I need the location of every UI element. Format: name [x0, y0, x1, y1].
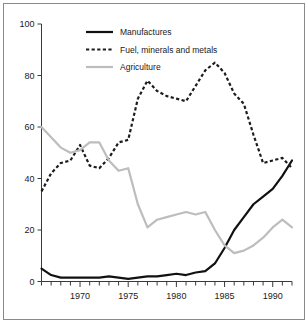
x-tick-label: 1980	[166, 291, 186, 301]
x-tick-label: 1985	[215, 291, 235, 301]
chart-figure: 020406080100 19701975198019851990 Manufa…	[0, 0, 308, 323]
chart-legend: ManufacturesFuel, minerals and metalsAgr…	[86, 27, 217, 72]
data-series-layer	[42, 63, 293, 279]
y-tick-label: 20	[24, 225, 34, 235]
chart-axes	[42, 24, 293, 282]
series-line-fuel-minerals-and-metals	[42, 63, 293, 192]
legend-label-2: Agriculture	[120, 62, 161, 72]
x-axis-ticks: 19701975198019851990	[42, 282, 293, 301]
x-tick-label: 1975	[118, 291, 138, 301]
y-tick-label: 80	[24, 71, 34, 81]
y-tick-label: 0	[29, 277, 34, 287]
y-tick-label: 40	[24, 174, 34, 184]
legend-label-0: Manufactures	[120, 27, 172, 37]
y-axis-ticks: 020406080100	[19, 19, 41, 287]
line-chart: 020406080100 19701975198019851990 Manufa…	[0, 0, 308, 323]
series-line-agriculture	[42, 127, 293, 253]
series-line-manufactures	[42, 160, 293, 278]
legend-label-1: Fuel, minerals and metals	[120, 45, 217, 55]
y-tick-label: 100	[19, 19, 34, 29]
x-tick-label: 1970	[70, 291, 90, 301]
x-tick-label: 1990	[263, 291, 283, 301]
y-tick-label: 60	[24, 122, 34, 132]
